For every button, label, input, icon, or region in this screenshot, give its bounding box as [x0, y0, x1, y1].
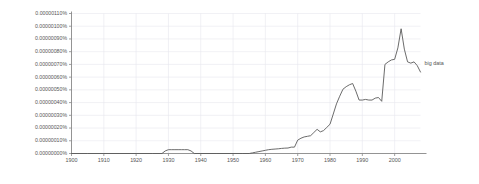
vertical-gridlines [104, 14, 395, 154]
x-axis-tick-label: 1940 [195, 157, 207, 163]
y-axis-tick-label: 0.00000070% [35, 61, 67, 67]
x-axis-tick-label: 1990 [356, 157, 368, 163]
y-axis-tick-label: 0.00000010% [35, 137, 67, 143]
x-axis-tick-label: 1920 [130, 157, 142, 163]
series-inline-legend[interactable]: big data [425, 60, 444, 66]
y-axis-tick-label: 0.00000050% [35, 86, 67, 92]
series-line-big-data [72, 29, 421, 154]
y-axis-tick-label: 0.00000030% [35, 112, 67, 118]
y-axis-tick-label: 0.00000110% [35, 10, 67, 16]
y-axis-tick-label: 0.00000060% [35, 74, 67, 80]
data-series-group [72, 29, 421, 154]
x-axis-tick-label: 1970 [292, 157, 304, 163]
ngram-chart-container: 0.00000110%0.00000100%0.00000090%0.00000… [0, 0, 479, 184]
y-axis-tick-label: 0.00000100% [35, 23, 67, 29]
x-axis-tick-label: 1980 [324, 157, 336, 163]
y-axis-tick-label: 0.00000040% [35, 99, 67, 105]
y-axis-tick-labels: 0.00000110%0.00000100%0.00000090%0.00000… [35, 10, 67, 156]
x-axis-tick-label: 1930 [162, 157, 174, 163]
x-axis-tick-label: 1910 [98, 157, 110, 163]
x-axis-tick-label: 2000 [389, 157, 401, 163]
series-label-big-data[interactable]: big data [425, 60, 444, 66]
x-axis-tick-label: 1900 [66, 157, 78, 163]
x-axis-tick-label: 1960 [259, 157, 271, 163]
y-axis-tick-label: 0.00000000% [35, 150, 67, 156]
y-axis [69, 12, 72, 154]
y-axis-tick-label: 0.00000080% [35, 48, 67, 54]
y-axis-tick-label: 0.00000020% [35, 124, 67, 130]
x-axis-tick-labels: 1900191019201930194019501960197019801990… [66, 157, 401, 163]
ngram-chart-svg: 0.00000110%0.00000100%0.00000090%0.00000… [0, 0, 479, 184]
horizontal-gridlines [72, 14, 421, 141]
y-axis-tick-label: 0.00000090% [35, 35, 67, 41]
x-axis-tick-label: 1950 [227, 157, 239, 163]
